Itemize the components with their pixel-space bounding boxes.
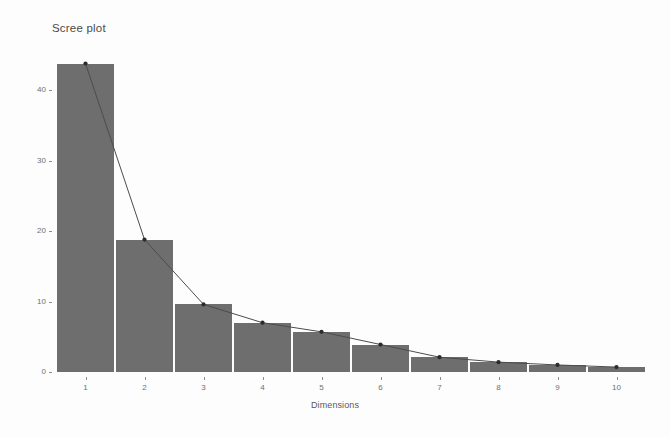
x-tick-label: 5 — [307, 383, 337, 392]
x-tick-mark — [440, 377, 441, 380]
x-tick-label: 7 — [425, 383, 455, 392]
bar-dimension-3 — [175, 304, 233, 372]
x-tick-mark — [145, 377, 146, 380]
x-tick-mark — [499, 377, 500, 380]
x-tick-label: 2 — [130, 383, 160, 392]
y-tick-label: 10 — [12, 297, 46, 306]
bar-dimension-7 — [411, 357, 469, 372]
page-title: Scree plot — [52, 22, 106, 34]
y-tick-mark — [49, 90, 52, 91]
x-tick-label: 9 — [543, 383, 573, 392]
y-tick-mark — [49, 231, 52, 232]
y-tick-label: 0 — [12, 367, 46, 376]
bar-dimension-8 — [470, 362, 528, 372]
bar-dimension-9 — [529, 365, 587, 372]
x-tick-label: 3 — [189, 383, 219, 392]
x-tick-mark — [204, 377, 205, 380]
x-tick-label: 10 — [602, 383, 632, 392]
bar-dimension-5 — [293, 332, 351, 372]
x-tick-label: 6 — [366, 383, 396, 392]
bar-dimension-6 — [352, 345, 410, 372]
x-tick-mark — [381, 377, 382, 380]
scree-plot-figure: Scree plot Percentage of explained varia… — [0, 0, 670, 437]
x-tick-mark — [86, 377, 87, 380]
y-tick-label: 40 — [12, 85, 46, 94]
bar-dimension-1 — [57, 64, 115, 373]
plot-area: 010203040 12345678910 — [56, 48, 646, 372]
x-tick-label: 1 — [71, 383, 101, 392]
y-tick-mark — [49, 302, 52, 303]
x-tick-label: 4 — [248, 383, 278, 392]
y-tick-mark — [49, 372, 52, 373]
bar-dimension-10 — [588, 367, 646, 372]
y-tick-label: 20 — [12, 226, 46, 235]
x-tick-mark — [558, 377, 559, 380]
bar-dimension-2 — [116, 240, 174, 372]
x-tick-mark — [263, 377, 264, 380]
x-axis-title: Dimensions — [0, 400, 670, 410]
x-tick-mark — [617, 377, 618, 380]
x-tick-mark — [322, 377, 323, 380]
y-tick-mark — [49, 161, 52, 162]
x-tick-label: 8 — [484, 383, 514, 392]
y-tick-label: 30 — [12, 156, 46, 165]
bar-dimension-4 — [234, 323, 292, 372]
